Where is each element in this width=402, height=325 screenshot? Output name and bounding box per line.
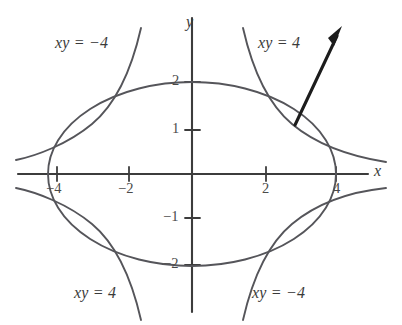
vector-arrow-head — [328, 26, 342, 46]
x-tick-label-2: 2 — [262, 181, 269, 196]
curve-label-top-right: xy = 4 — [258, 35, 300, 51]
y-tick-label--1: −1 — [163, 209, 178, 224]
x-tick-label-4: 4 — [333, 181, 340, 196]
x-axis-label: x — [374, 163, 381, 179]
y-axis-label: y — [186, 14, 193, 30]
axis-group — [18, 18, 368, 312]
figure-container: x y −4 −2 2 4 2 1 −1 −2 xy = −4 xy = 4 x… — [0, 0, 402, 325]
x-tick-label--2: −2 — [118, 181, 133, 196]
x-tick-label--4: −4 — [46, 181, 61, 196]
curve-label-top-left: xy = −4 — [55, 35, 108, 51]
curve-label-bottom-left: xy = 4 — [74, 285, 116, 301]
vector-arrow-shaft — [295, 36, 337, 125]
y-tick-label-2: 2 — [172, 73, 179, 88]
y-tick-label-1: 1 — [172, 121, 179, 136]
gradient-vector-arrow — [295, 26, 342, 125]
y-tick-label--2: −2 — [163, 256, 178, 271]
curve-label-bottom-right: xy = −4 — [252, 285, 305, 301]
